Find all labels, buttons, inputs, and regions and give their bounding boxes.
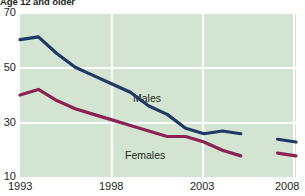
line-males-segment-2 bbox=[278, 139, 296, 142]
line-females bbox=[20, 89, 241, 155]
line-females-segment-2 bbox=[278, 153, 296, 156]
series-lines bbox=[0, 0, 305, 196]
line-males bbox=[20, 37, 241, 134]
chart-root: Age 12 and older 70 50 30 10 1993 1998 2… bbox=[0, 0, 305, 196]
